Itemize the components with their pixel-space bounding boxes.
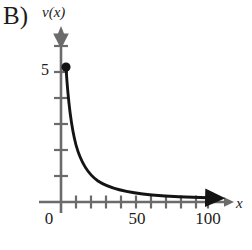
figure-panel-b: B) v(x) x 5 0 50 100 bbox=[0, 0, 252, 250]
function-curve bbox=[66, 67, 208, 198]
y-axis-arrowhead bbox=[57, 26, 66, 37]
x-axis-arrowhead bbox=[224, 197, 234, 207]
plot-canvas bbox=[0, 0, 252, 250]
endpoint-dot bbox=[61, 62, 70, 71]
